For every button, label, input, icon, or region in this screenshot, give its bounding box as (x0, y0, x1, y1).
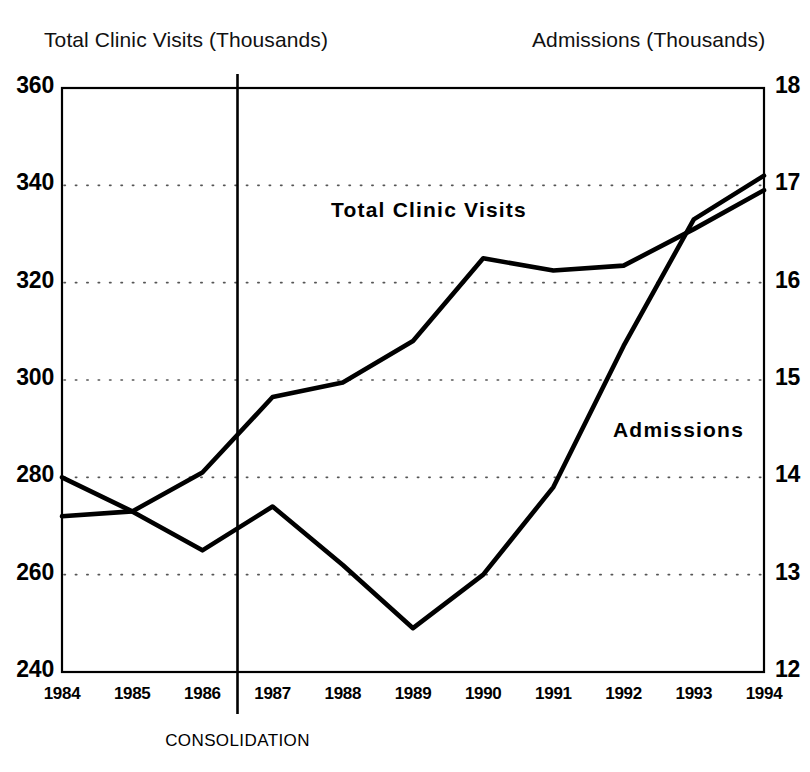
x-axis-tick-1992: 1992 (594, 684, 654, 704)
right-axis-tick-15: 15 (775, 364, 810, 391)
right-axis-tick-16: 16 (775, 267, 810, 294)
series-lines-group (62, 176, 764, 629)
x-axis-tick-1987: 1987 (243, 684, 303, 704)
x-axis-tick-1984: 1984 (32, 684, 92, 704)
x-axis-tick-1991: 1991 (523, 684, 583, 704)
x-axis-tick-1985: 1985 (102, 684, 162, 704)
right-axis-tick-13: 13 (775, 559, 810, 586)
right-axis-tick-17: 17 (775, 169, 810, 196)
chart-container: Total Clinic Visits (Thousands) Admissio… (0, 0, 810, 772)
gridlines-group (64, 185, 762, 574)
left-axis-tick-240: 240 (2, 656, 54, 683)
x-axis-tick-1989: 1989 (383, 684, 443, 704)
x-axis-tick-1993: 1993 (664, 684, 724, 704)
series-line-total-clinic-visits (62, 190, 764, 516)
right-axis-tick-18: 18 (775, 72, 810, 99)
series-line-admissions (62, 176, 764, 629)
left-axis-tick-340: 340 (2, 169, 54, 196)
x-axis-tick-1994: 1994 (734, 684, 794, 704)
right-axis-tick-14: 14 (775, 461, 810, 488)
left-axis-tick-280: 280 (2, 461, 54, 488)
left-axis-tick-300: 300 (2, 364, 54, 391)
x-axis-tick-1988: 1988 (313, 684, 373, 704)
left-axis-tick-360: 360 (2, 72, 54, 99)
x-axis-tick-1986: 1986 (172, 684, 232, 704)
right-axis-tick-12: 12 (775, 656, 810, 683)
left-axis-tick-260: 260 (2, 559, 54, 586)
x-axis-tick-1990: 1990 (453, 684, 513, 704)
left-axis-tick-320: 320 (2, 267, 54, 294)
plot-area (0, 0, 810, 772)
